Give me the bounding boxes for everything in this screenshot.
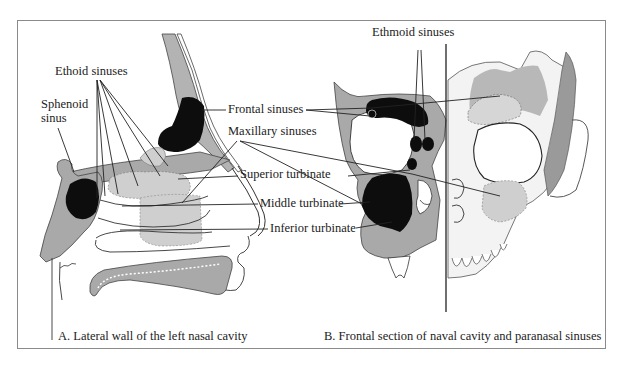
anatomy-illustration [0, 0, 623, 367]
label-sphenoid-line2: sinus [41, 112, 67, 125]
label-sphenoid-line1: Sphenoid [41, 98, 88, 111]
label-inferior-turbinate: Inferior turbinate [270, 222, 356, 235]
caption-panel-b: B. Frontal section of naval cavity and p… [324, 329, 601, 344]
label-middle-turbinate: Middle turbinate [260, 197, 344, 210]
label-frontal-sinuses: Frontal sinuses [228, 103, 303, 116]
caption-panel-a: A. Lateral wall of the left nasal cavity [58, 329, 248, 344]
panel-a-drawing [40, 34, 268, 340]
label-ethmoid-sinuses: Ethmoid sinuses [372, 26, 454, 39]
label-ethoid-sinuses: Ethoid sinuses [55, 65, 128, 78]
label-maxillary-sinuses: Maxillary sinuses [228, 125, 317, 138]
label-superior-turbinate: Superior turbinate [240, 168, 331, 181]
